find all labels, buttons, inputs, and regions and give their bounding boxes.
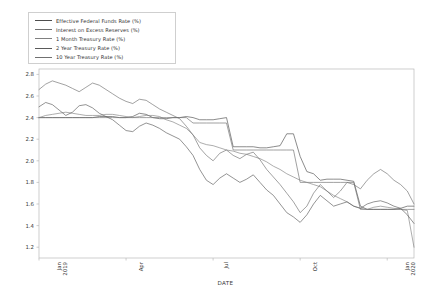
legend-swatch-0: [35, 20, 52, 21]
legend-label-2: 1 Month Treasury Rate (%): [56, 36, 125, 42]
legend-swatch-4: [35, 57, 52, 58]
legend-label-1: Interest on Excess Reserves (%): [56, 27, 140, 33]
y-tick-label: 2.8: [18, 71, 34, 77]
series-line: [39, 112, 414, 247]
legend-item-10-year-treasury-rate: 10 Year Treasury Rate (%): [33, 53, 171, 62]
chart-figure: Effective Federal Funds Rate (%) Interes…: [0, 0, 448, 304]
y-tick-label: 2.4: [18, 115, 34, 121]
legend-label-3: 2 Year Treasury Rate (%): [56, 45, 120, 51]
legend-label-0: Effective Federal Funds Rate (%): [56, 18, 141, 24]
legend-swatch-3: [35, 48, 52, 49]
series-line: [39, 113, 414, 209]
series-line: [39, 102, 414, 223]
plot-frame: [39, 69, 414, 258]
legend-label-4: 10 Year Treasury Rate (%): [56, 54, 123, 60]
series-line: [39, 81, 414, 213]
legend-item-1-month-treasury-rate: 1 Month Treasury Rate (%): [33, 34, 171, 43]
y-tick-label: 1.4: [18, 223, 34, 229]
y-tick-label: 1.8: [18, 179, 34, 185]
x-tick-label: Jan 2019: [56, 262, 68, 276]
y-tick-label: 2.6: [18, 93, 34, 99]
x-tick-label: Jan 2020: [404, 262, 416, 276]
axis-tick-marks: [37, 74, 388, 260]
x-axis-title: DATE: [218, 280, 234, 286]
legend-swatch-1: [35, 29, 52, 30]
legend-item-2-year-treasury-rate: 2 Year Treasury Rate (%): [33, 44, 171, 53]
y-tick-label: 1.2: [18, 244, 34, 250]
chart-legend: Effective Federal Funds Rate (%) Interes…: [28, 12, 176, 64]
y-tick-label: 2.2: [18, 136, 34, 142]
x-tick-label: Apr: [138, 262, 144, 271]
legend-swatch-2: [35, 38, 52, 39]
y-tick-label: 2.0: [18, 158, 34, 164]
y-tick-label: 1.6: [18, 201, 34, 207]
series-lines: [39, 81, 414, 247]
legend-item-effective-federal-funds-rate: Effective Federal Funds Rate (%): [33, 16, 171, 25]
legend-item-interest-on-excess-reserves: Interest on Excess Reserves (%): [33, 25, 171, 34]
x-tick-label: Jul: [223, 262, 229, 269]
x-tick-label: Oct: [312, 262, 318, 271]
